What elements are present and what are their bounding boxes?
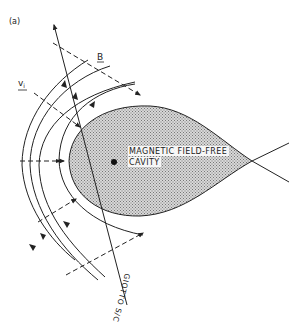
diamagnetic-cavity-diagram: (a) B vi MAGNETIC FIELD-FRE bbox=[0, 0, 306, 332]
lower-dashed-vector-2 bbox=[66, 233, 143, 275]
nucleus-dot bbox=[111, 159, 117, 165]
vi-label: vi bbox=[18, 78, 25, 89]
cavity-label-line2: CAVITY bbox=[129, 158, 160, 167]
tail-line-lower bbox=[252, 161, 289, 182]
giotto-label: GIOTTO S/C bbox=[111, 273, 132, 323]
panel-label: (a) bbox=[9, 17, 20, 26]
tail-line-upper bbox=[252, 143, 289, 161]
lower-dashed-vector-1 bbox=[38, 199, 76, 222]
cavity-label-line1: MAGNETIC FIELD-FREE bbox=[129, 147, 227, 156]
b-label: B bbox=[97, 52, 103, 62]
